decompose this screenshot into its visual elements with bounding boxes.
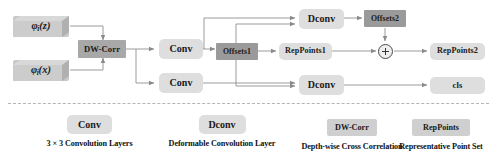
legend-divider	[8, 103, 489, 104]
wire-offsets1-to-dconvbottom	[236, 59, 295, 86]
node-offsets2-label: Offsets2	[371, 15, 399, 23]
plus-vertical-bar	[385, 48, 386, 55]
node-dconv-bottom-label: Dconv	[308, 80, 336, 90]
node-offsets1[interactable]: Offsets1	[216, 43, 258, 60]
legend-chip-dwcorr: DW-Corr	[327, 119, 377, 136]
legend-item-reppoints: RepPoints Representative Point Set	[385, 116, 497, 151]
node-conv-bottom[interactable]: Conv	[159, 73, 203, 93]
wire-phix-to-dwcorr	[70, 58, 103, 70]
wire-offsets1-to-dconvtop	[236, 24, 295, 43]
node-offsets1-label: Offsets1	[223, 48, 251, 56]
legend-chip-reppoints: RepPoints	[412, 119, 470, 136]
figure-canvas: φi(z) φi(x) DW-Corr Conv Conv Offsets1 D…	[0, 0, 497, 163]
node-dw-corr[interactable]: DW-Corr	[78, 40, 126, 58]
node-conv-bottom-label: Conv	[169, 78, 192, 88]
node-adder[interactable]	[378, 44, 393, 59]
legend-item-conv: Conv 3 × 3 Convolution Layers	[23, 114, 156, 148]
node-conv-top-label: Conv	[169, 44, 192, 54]
node-phi-x-label: φi(x)	[31, 65, 51, 76]
node-dconv-bottom[interactable]: Dconv	[299, 75, 344, 95]
wire-dwcorr-to-convbottom	[136, 49, 154, 83]
node-dw-corr-label: DW-Corr	[84, 45, 120, 54]
legend-caption-reppoints: Representative Point Set	[385, 142, 497, 151]
node-cls[interactable]: cls	[430, 77, 485, 94]
node-conv-top[interactable]: Conv	[159, 39, 203, 59]
legend-caption-dconv: Deformable Convolution Layer	[148, 139, 296, 148]
node-dconv-top[interactable]: Dconv	[299, 9, 344, 29]
node-dconv-top-label: Dconv	[308, 14, 336, 24]
node-reppoints1[interactable]: RepPoints1	[279, 43, 332, 60]
node-offsets2[interactable]: Offsets2	[364, 10, 406, 27]
node-phi-x[interactable]: φi(x)	[13, 60, 69, 81]
node-cls-label: cls	[453, 81, 463, 90]
node-reppoints1-label: RepPoints1	[285, 47, 326, 55]
wire-phiz-to-dwcorr	[70, 26, 103, 40]
legend-chip-conv: Conv	[67, 115, 112, 134]
node-reppoints2-label: RepPoints2	[437, 47, 478, 55]
legend-caption-conv: 3 × 3 Convolution Layers	[23, 139, 156, 148]
node-phi-z[interactable]: φi(z)	[13, 16, 69, 37]
node-reppoints2[interactable]: RepPoints2	[430, 43, 485, 60]
legend-chip-dconv: Dconv	[199, 115, 246, 134]
legend-item-dconv: Dconv Deformable Convolution Layer	[148, 114, 296, 148]
node-phi-z-label: φi(z)	[31, 21, 50, 32]
